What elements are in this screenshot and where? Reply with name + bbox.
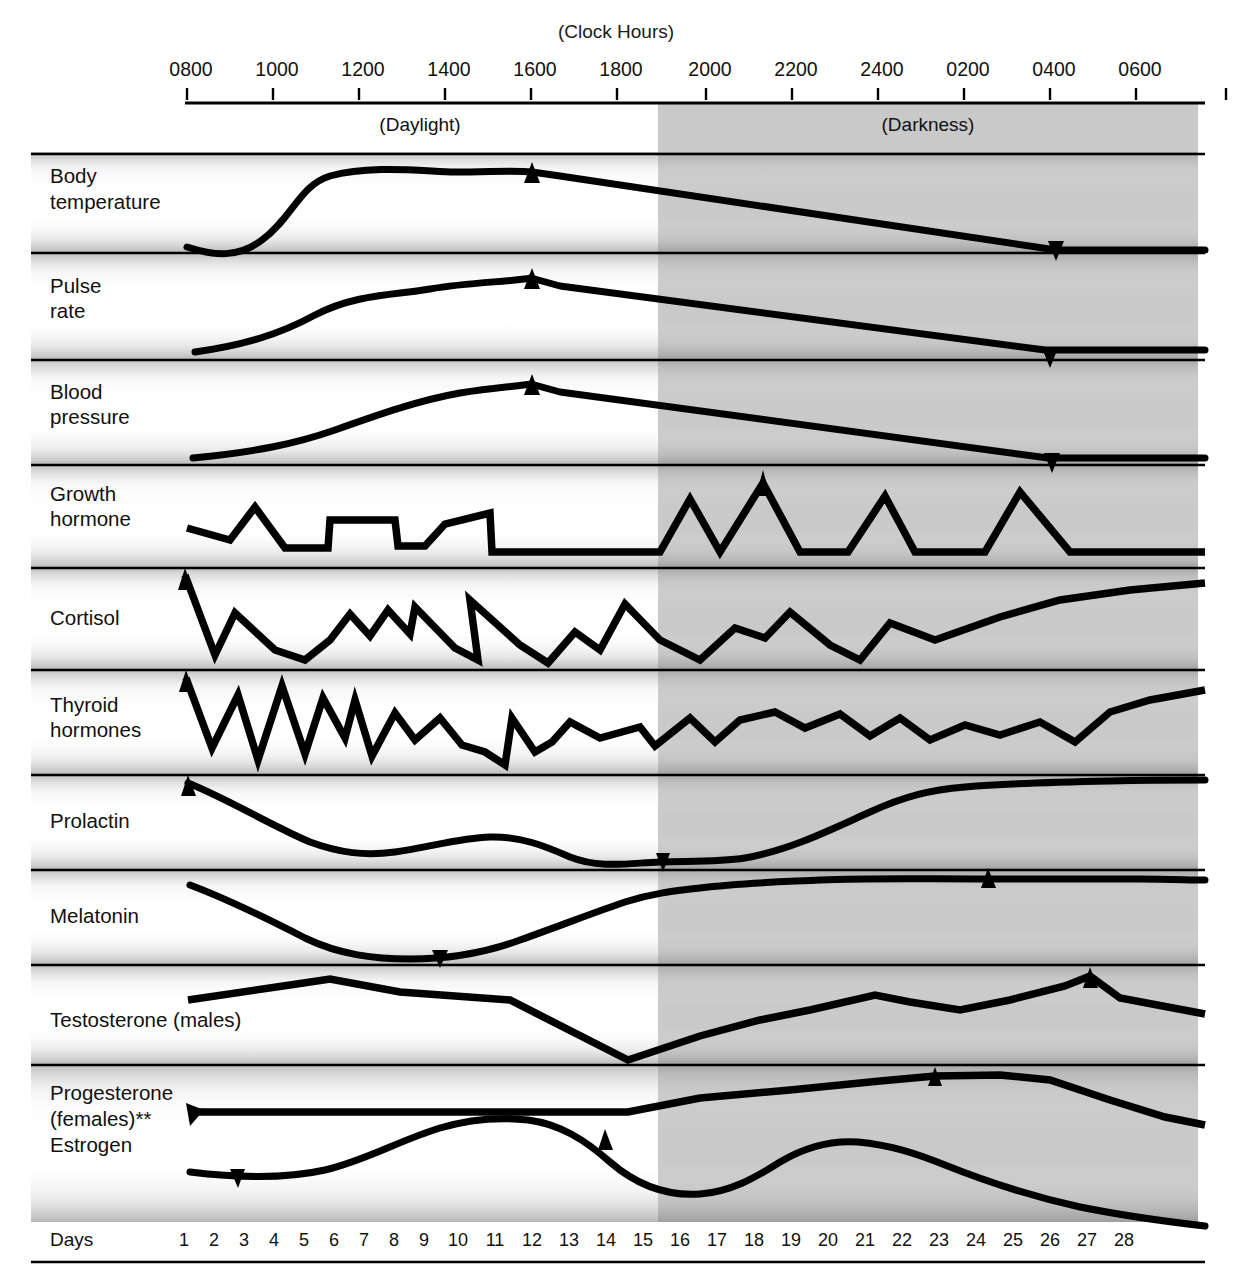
clock-tick-label: 1000	[255, 58, 299, 80]
daylight-label: (Daylight)	[379, 114, 460, 135]
clock-tick-label: 0600	[1118, 58, 1162, 80]
day-label: 1	[179, 1230, 189, 1250]
day-label: 10	[448, 1230, 468, 1250]
row-label-estrogen: Estrogen	[50, 1133, 132, 1156]
day-label: 26	[1040, 1230, 1060, 1250]
day-label: 17	[707, 1230, 727, 1250]
clock-tick-label: 2200	[774, 58, 818, 80]
day-label: 4	[269, 1230, 279, 1250]
row-label-body-temperature-2: temperature	[50, 190, 161, 213]
clock-tick-label: 0200	[946, 58, 990, 80]
row-label-prolactin: Prolactin	[50, 809, 130, 832]
row-label-blood-pressure-2: pressure	[50, 405, 130, 428]
chart-title: (Clock Hours)	[558, 21, 674, 42]
day-label: 27	[1077, 1230, 1097, 1250]
day-label: 21	[855, 1230, 875, 1250]
row-label-thyroid-hormones: Thyroid	[50, 693, 118, 716]
row-label-blood-pressure: Blood	[50, 380, 102, 403]
day-label: 16	[670, 1230, 690, 1250]
day-label: 5	[299, 1230, 309, 1250]
day-label: 22	[892, 1230, 912, 1250]
days-axis-title: Days	[50, 1229, 93, 1250]
clock-tick-label: 1800	[599, 58, 643, 80]
day-label: 9	[419, 1230, 429, 1250]
row-label-pulse-rate: Pulse	[50, 274, 101, 297]
clock-tick-label: 1400	[427, 58, 471, 80]
clock-hour-ticks	[187, 88, 1226, 100]
day-label: 8	[389, 1230, 399, 1250]
day-label: 13	[559, 1230, 579, 1250]
darkness-label: (Darkness)	[882, 114, 975, 135]
plot-shading	[31, 152, 1198, 1222]
day-label: 28	[1114, 1230, 1134, 1250]
day-label: 20	[818, 1230, 838, 1250]
row-label-body-temperature: Body	[50, 164, 97, 187]
row-label-females: (females)**	[50, 1107, 151, 1130]
clock-hour-labels: 0800 1000 1200 1400 1600 1800 2000 2200 …	[169, 58, 1162, 80]
day-label: 15	[633, 1230, 653, 1250]
clock-tick-label: 0400	[1032, 58, 1076, 80]
row-label-cortisol: Cortisol	[50, 606, 120, 629]
day-label: 24	[966, 1230, 986, 1250]
clock-tick-label: 1200	[341, 58, 385, 80]
row-label-melatonin: Melatonin	[50, 904, 139, 927]
day-label: 6	[329, 1230, 339, 1250]
row-label-testosterone-males: Testosterone (males)	[50, 1008, 241, 1031]
day-label: 3	[239, 1230, 249, 1250]
row-label-growth-hormone: Growth	[50, 482, 116, 505]
day-label: 2	[209, 1230, 219, 1250]
clock-tick-label: 2400	[860, 58, 904, 80]
circadian-chart-svg: (Clock Hours) 0800 1000 1200 1400 1600 1…	[0, 0, 1233, 1270]
row-label-progesterone: Progesterone	[50, 1081, 173, 1104]
row-label-growth-hormone-2: hormone	[50, 507, 131, 530]
day-label: 25	[1003, 1230, 1023, 1250]
clock-tick-label: 1600	[513, 58, 557, 80]
clock-tick-label: 0800	[169, 58, 213, 80]
circadian-rhythm-figure: (Clock Hours) 0800 1000 1200 1400 1600 1…	[0, 0, 1233, 1270]
row-label-thyroid-hormones-2: hormones	[50, 718, 141, 741]
day-label: 23	[929, 1230, 949, 1250]
clock-tick-label: 2000	[688, 58, 732, 80]
row-label-pulse-rate-2: rate	[50, 299, 85, 322]
day-number-labels: 1 2 3 4 5 6 7 8 9 10 11 12 13 14 15 16 1…	[179, 1230, 1134, 1250]
day-label: 18	[744, 1230, 764, 1250]
day-label: 19	[781, 1230, 801, 1250]
day-label: 12	[522, 1230, 542, 1250]
day-label: 7	[359, 1230, 369, 1250]
day-label: 11	[486, 1230, 505, 1250]
day-label: 14	[596, 1230, 616, 1250]
